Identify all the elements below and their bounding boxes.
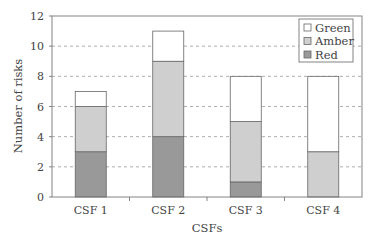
bar-segment-green: [230, 76, 261, 121]
y-axis-ticks: 024681012: [30, 10, 52, 204]
y-tick-label: 0: [37, 191, 44, 204]
x-axis-label: CSFs: [192, 221, 223, 235]
y-tick-label: 6: [37, 101, 44, 114]
legend-label-amber: Amber: [314, 34, 354, 48]
x-tick-label: CSF 4: [306, 204, 340, 217]
y-axis-label: Number of risks: [11, 59, 25, 154]
bar-segment-amber: [153, 61, 184, 136]
bar-segment-red: [230, 182, 261, 197]
legend-swatch-red: [304, 51, 311, 58]
stacked-bar-chart: 024681012 CSF 1CSF 2CSF 3CSF 4 Number of…: [0, 0, 379, 241]
bar-segment-amber: [308, 152, 339, 197]
y-tick-label: 12: [30, 10, 44, 23]
legend: GreenAmberRed: [299, 19, 354, 62]
bar-segment-red: [153, 137, 184, 197]
bar-segment-amber: [75, 107, 106, 152]
legend-label-red: Red: [315, 48, 338, 62]
legend-swatch-green: [304, 24, 311, 31]
y-tick-label: 10: [30, 40, 44, 53]
x-tick-label: CSF 2: [151, 204, 185, 217]
legend-swatch-amber: [304, 38, 311, 45]
legend-label-green: Green: [315, 21, 351, 35]
y-tick-label: 8: [37, 70, 44, 83]
y-tick-label: 4: [37, 131, 44, 144]
y-tick-label: 2: [37, 161, 44, 174]
bar-segment-amber: [230, 122, 261, 182]
bar-segment-green: [75, 91, 106, 106]
x-axis-ticks: CSF 1CSF 2CSF 3CSF 4: [74, 197, 341, 217]
bar-segment-green: [308, 76, 339, 151]
x-tick-label: CSF 1: [74, 204, 108, 217]
bar-segment-red: [75, 152, 106, 197]
x-tick-label: CSF 3: [229, 204, 263, 217]
bar-segment-green: [153, 31, 184, 61]
